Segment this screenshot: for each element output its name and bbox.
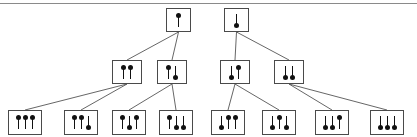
down-arrow-icon (323, 115, 328, 130)
up-arrow-icon (236, 65, 241, 80)
arrow-head (79, 115, 84, 120)
arrow-head (283, 75, 288, 80)
spin-node-l1b[interactable] (157, 60, 187, 84)
arrow-head (181, 125, 186, 130)
spin-node-r1a[interactable] (220, 60, 250, 84)
arrow-head (226, 115, 231, 120)
up-arrow-icon (167, 115, 172, 130)
up-arrow-icon (16, 115, 21, 130)
down-arrow-icon (284, 115, 289, 130)
tree-edge (235, 84, 279, 110)
arrow-head (128, 65, 133, 70)
spin-node-l2a[interactable] (8, 110, 42, 135)
arrow-head (290, 75, 295, 80)
down-arrow-icon (270, 115, 275, 130)
tree-edge (228, 84, 235, 110)
spin-node-r2d[interactable] (370, 110, 404, 135)
tree-edge (289, 84, 387, 110)
spin-node-r1b[interactable] (274, 60, 304, 84)
arrow-head (72, 115, 77, 120)
down-arrow-icon (283, 65, 288, 80)
arrow-head (16, 115, 21, 120)
down-arrow-icon (174, 115, 179, 130)
arrow-head (176, 13, 181, 18)
arrow-head (229, 75, 234, 80)
tree-edge (129, 84, 172, 110)
spin-node-l2d[interactable] (159, 110, 193, 135)
tree-edge (289, 84, 332, 110)
arrow-head (166, 65, 171, 70)
tree-edge (25, 84, 127, 110)
up-arrow-icon (121, 65, 126, 80)
up-arrow-icon (226, 115, 231, 130)
down-arrow-icon (219, 115, 224, 130)
up-arrow-icon (72, 115, 77, 130)
arrow-head (385, 125, 390, 130)
arrow-head (219, 125, 224, 130)
spin-node-r0[interactable] (224, 8, 249, 32)
edge-layer (0, 0, 417, 137)
arrow-head (167, 115, 172, 120)
down-arrow-icon (181, 115, 186, 130)
up-arrow-icon (30, 115, 35, 130)
down-arrow-icon (127, 115, 132, 130)
arrow-head (233, 115, 238, 120)
arrow-head (337, 115, 342, 120)
down-arrow-icon (229, 65, 234, 80)
down-arrow-icon (173, 65, 178, 80)
up-arrow-icon (277, 115, 282, 130)
arrow-head (236, 65, 241, 70)
arrow-head (174, 125, 179, 130)
arrow-head (234, 23, 239, 28)
tree-edge (172, 32, 179, 60)
spin-node-r2a[interactable] (211, 110, 245, 135)
arrow-head (277, 115, 282, 120)
up-arrow-icon (166, 65, 171, 80)
down-arrow-icon (290, 65, 295, 80)
arrow-head (134, 115, 139, 120)
arrow-head (330, 125, 335, 130)
down-arrow-icon (385, 115, 390, 130)
spin-node-r2c[interactable] (315, 110, 349, 135)
tree-edge (127, 32, 179, 60)
tree-edge (81, 84, 127, 110)
down-arrow-icon (86, 115, 91, 130)
up-arrow-icon (134, 115, 139, 130)
up-arrow-icon (233, 115, 238, 130)
spin-node-l1a[interactable] (112, 60, 142, 84)
arrow-head (23, 115, 28, 120)
arrow-head (86, 125, 91, 130)
down-arrow-icon (234, 13, 239, 28)
diagram-canvas (0, 0, 417, 137)
up-arrow-icon (176, 13, 181, 28)
spin-node-l0[interactable] (166, 8, 191, 32)
tree-edge (235, 32, 237, 60)
up-arrow-icon (337, 115, 342, 130)
down-arrow-icon (392, 115, 397, 130)
arrow-head (120, 115, 125, 120)
spin-node-l2c[interactable] (112, 110, 146, 135)
arrow-head (378, 125, 383, 130)
arrow-head (173, 75, 178, 80)
arrow-head (392, 125, 397, 130)
spin-node-r2b[interactable] (262, 110, 296, 135)
down-arrow-icon (378, 115, 383, 130)
arrow-head (127, 125, 132, 130)
spin-node-l2b[interactable] (64, 110, 98, 135)
down-arrow-icon (330, 115, 335, 130)
arrow-head (284, 125, 289, 130)
up-arrow-icon (128, 65, 133, 80)
arrow-head (270, 125, 275, 130)
arrow-head (121, 65, 126, 70)
arrow-head (30, 115, 35, 120)
arrow-head (323, 125, 328, 130)
up-arrow-icon (79, 115, 84, 130)
up-arrow-icon (23, 115, 28, 130)
tree-edge (237, 32, 290, 60)
up-arrow-icon (120, 115, 125, 130)
tree-edge (172, 84, 176, 110)
